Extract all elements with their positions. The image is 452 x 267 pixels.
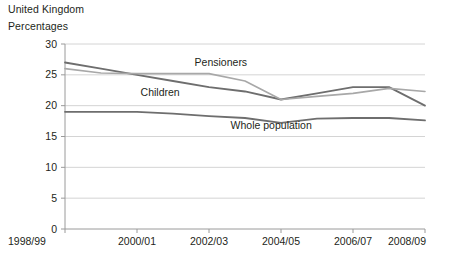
y-axis-tick-label: 25 (45, 68, 57, 80)
y-axis-tick-labels-group: 051015202530 (45, 38, 57, 235)
data-series-group (65, 63, 425, 123)
y-axis-tick-label: 30 (45, 38, 57, 50)
y-axis-tick-label: 15 (45, 130, 57, 142)
x-axis-tick-label: 2006/07 (334, 235, 372, 247)
chart-figure: United Kingdom Percentages 051015202530 … (0, 0, 452, 267)
series-label-whole-population: Whole population (231, 119, 312, 131)
x-axis-tick-label: 2004/05 (262, 235, 300, 247)
chart-title-country: United Kingdom (8, 3, 84, 15)
y-axis-tick-label: 5 (51, 192, 57, 204)
chart-subtitle-units: Percentages (8, 20, 68, 32)
line-chart-svg: 051015202530 1998/992000/012002/032004/0… (0, 36, 452, 267)
x-axis-tick-label: 2002/03 (190, 235, 228, 247)
y-axis-ticks-group (61, 44, 65, 229)
x-axis-tick-label: 1998/99 (8, 235, 46, 247)
series-line-pensioners (65, 69, 425, 100)
series-line-children (65, 63, 425, 106)
y-axis-tick-label: 20 (45, 99, 57, 111)
x-axis-tick-label: 2000/01 (118, 235, 156, 247)
series-label-children: Children (141, 86, 180, 98)
x-axis-tick-labels-group: 1998/992000/012002/032004/052006/072008/… (8, 235, 426, 247)
plot-area: 051015202530 1998/992000/012002/032004/0… (0, 36, 452, 267)
series-label-pensioners: Pensioners (195, 56, 248, 68)
x-axis-tick-label: 2008/09 (388, 235, 426, 247)
y-axis-tick-label: 0 (51, 223, 57, 235)
series-labels-group: ChildrenPensionersWhole population (141, 56, 312, 131)
x-axis-ticks-group (65, 229, 425, 233)
y-axis-tick-label: 10 (45, 161, 57, 173)
